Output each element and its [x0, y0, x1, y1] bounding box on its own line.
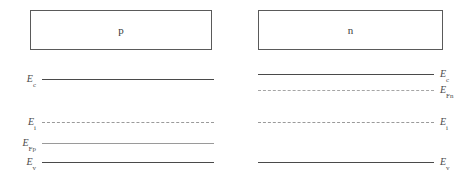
- energy-level-label-n-efn: EFn: [440, 85, 454, 95]
- energy-level-line-n-ei: [258, 122, 434, 123]
- energy-level-line-p-ei: [42, 122, 214, 123]
- energy-level-line-n-ev: [258, 162, 434, 163]
- energy-subscript: v: [446, 164, 450, 172]
- energy-subscript: c: [33, 81, 36, 89]
- energy-subscript: i: [446, 124, 448, 132]
- energy-subscript: Fn: [446, 92, 453, 100]
- energy-level-line-p-efp: [42, 143, 214, 144]
- energy-subscript: Fp: [29, 145, 36, 153]
- energy-subscript: i: [34, 124, 36, 132]
- energy-level-line-p-ev: [42, 162, 214, 163]
- region-box-p-region: p: [30, 10, 212, 50]
- energy-symbol: E: [22, 137, 28, 148]
- energy-symbol: E: [27, 73, 33, 84]
- energy-level-label-p-ei: Ei: [0, 117, 36, 127]
- energy-level-label-n-ev: Ev: [440, 157, 450, 167]
- energy-level-line-p-ec: [42, 79, 214, 80]
- energy-level-label-p-efp: EFp: [0, 138, 36, 148]
- energy-subscript: c: [446, 76, 449, 84]
- energy-level-line-n-ec: [258, 74, 434, 75]
- energy-level-label-p-ev: Ev: [0, 157, 36, 167]
- energy-level-label-p-ec: Ec: [0, 74, 36, 84]
- energy-level-label-n-ec: Ec: [440, 69, 449, 79]
- region-label-p-region: p: [31, 25, 211, 36]
- energy-level-label-n-ei: Ei: [440, 117, 448, 127]
- energy-subscript: v: [33, 164, 37, 172]
- band-diagram-figure: pn EcEiEFpEvEcEFnEiEv: [0, 0, 475, 181]
- energy-symbol: E: [26, 156, 32, 167]
- region-label-n-region: n: [259, 25, 442, 36]
- region-box-n-region: n: [258, 10, 443, 50]
- energy-level-line-n-efn: [258, 90, 434, 91]
